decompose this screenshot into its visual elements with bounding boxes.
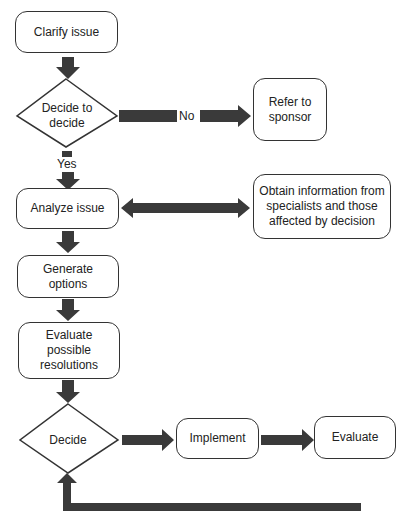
arrow-generate-to-evaluate: [56, 299, 80, 321]
arrow-feedback-to-decide: [57, 458, 361, 511]
node-decide-to-decide: Decide to decide: [32, 100, 102, 132]
arrow-decide-to-implement: [122, 429, 174, 451]
edge-label-yes: Yes: [57, 157, 77, 171]
node-analyze-issue: Analyze issue: [16, 188, 119, 229]
node-clarify-issue: Clarify issue: [15, 11, 118, 53]
node-refer-to-sponsor: Refer to sponsor: [253, 78, 327, 141]
double-arrow-analyze-obtain: [121, 198, 250, 218]
node-obtain-information: Obtain information from specialists and …: [253, 174, 391, 239]
arrow-implement-to-evaluate: [261, 429, 314, 451]
arrow-no-shaft-left: [119, 110, 177, 122]
arrow-no-head: [200, 105, 251, 127]
arrow-evaluate-to-decide: [56, 380, 80, 403]
node-implement: Implement: [176, 418, 259, 459]
node-evaluate: Evaluate: [314, 416, 396, 459]
node-generate-options: Generate options: [17, 255, 119, 298]
arrow-analyze-to-generate: [56, 231, 80, 253]
node-decide: Decide: [38, 430, 98, 450]
arrow-clarify-to-decide: [56, 57, 80, 79]
edge-label-no: No: [179, 109, 194, 123]
node-evaluate-possible-resolutions: Evaluate possible resolutions: [18, 322, 120, 379]
